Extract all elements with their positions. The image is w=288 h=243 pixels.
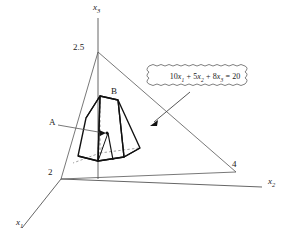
- x1-intercept-label: 2: [48, 168, 53, 177]
- axis-lines: [22, 18, 262, 228]
- eq-var-2-sub: 2: [201, 77, 204, 83]
- callout-arrowhead: [150, 120, 158, 126]
- constraint-equation-label: 10x1 + 5x2 + 8x3 = 20: [151, 73, 259, 83]
- eq-coef-1: 10: [170, 72, 178, 81]
- eq-rhs: 20: [232, 72, 240, 81]
- x1-axis-line: [22, 179, 61, 228]
- point-A-leader-line: [58, 125, 104, 133]
- x3-intercept-label: 2.5: [73, 43, 84, 52]
- eq-var-3-sub: 3: [220, 77, 223, 83]
- diagram-svg: [0, 0, 288, 243]
- x2-axis-label: x2: [268, 177, 275, 188]
- point-B-label: B: [111, 87, 117, 96]
- plane-edge-x1-x2: [61, 172, 236, 179]
- callout-arrow: [150, 92, 190, 126]
- figure-canvas: x1 x2 x3 2.5 2 4 A B 10x1 + 5x2 + 8x3 = …: [0, 0, 288, 243]
- x1-axis-label: x1: [16, 218, 23, 229]
- solid-apex-edges: [86, 96, 118, 118]
- callout-arrow-line: [154, 92, 190, 122]
- solid-edge-interior-2: [98, 133, 108, 161]
- point-A-dot: [106, 132, 109, 135]
- point-A-arrowhead: [99, 130, 106, 136]
- eq-op-2: +: [206, 72, 211, 81]
- solid-edge-interior: [108, 133, 113, 160]
- eq-var-1-sub: 1: [182, 77, 185, 83]
- point-A-label: A: [49, 118, 56, 127]
- solid-face-left: [78, 96, 100, 161]
- eq-equals: =: [225, 72, 230, 81]
- eq-op-1: +: [186, 72, 191, 81]
- x2-axis-line: [61, 179, 262, 187]
- feasible-region-solid: [78, 96, 140, 161]
- x3-axis-label: x3: [93, 3, 100, 14]
- x2-intercept-label: 4: [232, 160, 237, 169]
- solid-base-edges: [78, 148, 140, 161]
